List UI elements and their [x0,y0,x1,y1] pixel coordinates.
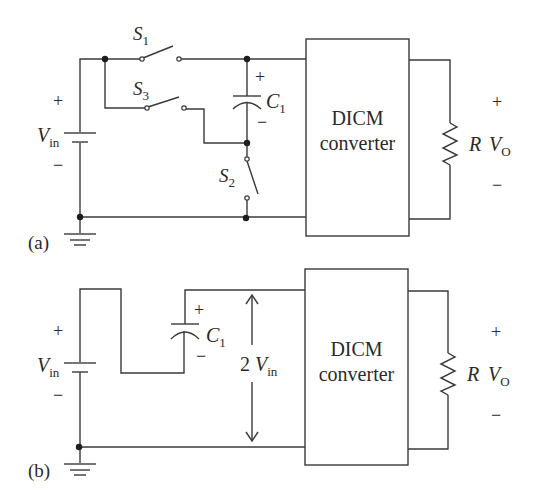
output-minus-b: − [491,406,501,424]
output-label-a: VO [489,134,511,154]
resistor-label-a: R [469,134,481,154]
output-plus-b: + [491,323,501,341]
output-minus-a: − [492,176,502,194]
switch-s3-label: S3 [133,79,149,98]
node-a3 [244,140,250,146]
converter-title-b: DICM [305,339,408,359]
voltage-label-2vin: 2 Vin [240,354,277,374]
capacitor-c1-curved-plate-b [171,332,199,339]
switch-s2-blade [247,161,258,194]
capacitor-plus-b: + [194,301,204,319]
capacitor-minus-a: − [257,113,267,131]
source-minus-a: − [53,156,63,174]
circuit-figure: S1 S3 S2 + Vin − + C1 − DICM converter R… [0,0,542,499]
source-label-a: Vin [37,125,59,145]
node-a5 [243,215,249,221]
converter-subtitle-b: converter [305,364,408,384]
output-plus-a: + [492,93,502,111]
source-plus-b: + [53,322,63,340]
converter-subtitle-a: converter [306,133,409,153]
switch-s1-contact-right [177,57,181,61]
resistor-label-b: R [467,364,479,384]
source-minus-b: − [53,386,63,404]
capacitor-plus-a: + [255,68,265,86]
switch-s2-label: S2 [219,166,235,185]
capacitor-label-b: C1 [206,325,226,345]
converter-title-a: DICM [306,108,409,128]
source-label-b: Vin [37,355,59,375]
resistor-zigzag-a [443,123,457,165]
switch-s3-blade [148,97,179,107]
node-a4 [77,214,83,220]
output-label-b: VO [488,364,510,384]
switch-s2-contact-top [245,157,249,161]
circuit-schematic [0,0,542,499]
capacitor-label-a: C1 [266,91,286,111]
node-a2 [244,56,250,62]
source-plus-a: + [53,92,63,110]
switch-s3-contact-right [182,106,186,110]
resistor-zigzag-b [441,353,455,395]
capacitor-minus-b: − [196,347,206,365]
switch-s1-label: S1 [133,24,149,43]
switch-s3-contact-left [145,106,149,110]
node-b1 [76,444,82,450]
switch-s1-contact-left [140,57,144,61]
panel-b-label: (b) [28,461,50,480]
switch-s2-contact-bottom [245,196,249,200]
panel-a-label: (a) [28,233,49,252]
node-a1 [102,56,108,62]
